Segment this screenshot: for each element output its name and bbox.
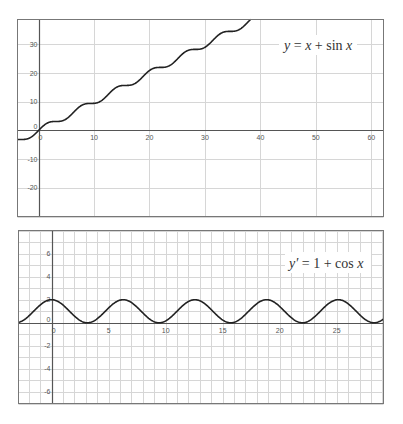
- svg-text:20: 20: [30, 70, 38, 77]
- svg-text:20: 20: [146, 134, 154, 141]
- svg-text:50: 50: [312, 134, 320, 141]
- chart2-equation-label: y′ = 1 + cos x: [285, 252, 371, 273]
- svg-text:5: 5: [107, 327, 111, 334]
- svg-text:25: 25: [333, 327, 341, 334]
- chart1-equation-label: y = x + sin x: [279, 35, 357, 55]
- svg-text:-4: -4: [44, 365, 50, 372]
- svg-text:0: 0: [39, 134, 43, 141]
- chart1-tick-labels: 0102030405060-20-100102030: [27, 41, 375, 191]
- svg-text:10: 10: [90, 134, 98, 141]
- svg-text:6: 6: [47, 250, 51, 257]
- svg-text:-10: -10: [27, 156, 37, 163]
- svg-text:y = x + sin x: y = x + sin x: [282, 38, 353, 53]
- svg-text:0: 0: [34, 123, 38, 130]
- svg-text:60: 60: [367, 134, 375, 141]
- svg-text:15: 15: [219, 327, 227, 334]
- svg-text:-20: -20: [27, 184, 37, 191]
- svg-text:10: 10: [162, 327, 170, 334]
- svg-text:4: 4: [47, 273, 51, 280]
- svg-text:20: 20: [276, 327, 284, 334]
- chart1-curve: [18, 20, 251, 140]
- svg-text:30: 30: [30, 41, 38, 48]
- svg-text:-6: -6: [44, 388, 50, 395]
- svg-text:40: 40: [256, 134, 264, 141]
- svg-text:0: 0: [47, 316, 51, 323]
- svg-text:0: 0: [52, 327, 56, 334]
- svg-text:30: 30: [201, 134, 209, 141]
- svg-text:y′ = 1 + cos x: y′ = 1 + cos x: [287, 256, 364, 271]
- svg-text:-2: -2: [44, 342, 50, 349]
- chart-y-equals-x-plus-sinx: 0102030405060-20-100102030 y = x + sin x…: [0, 0, 403, 424]
- svg-text:10: 10: [30, 98, 38, 105]
